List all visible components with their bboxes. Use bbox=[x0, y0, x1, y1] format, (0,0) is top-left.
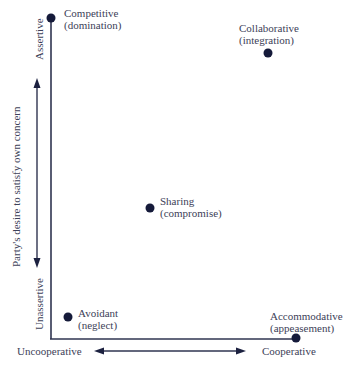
label-collaborative: Collaborative (integration) bbox=[239, 22, 299, 46]
label-name: Avoidant bbox=[78, 307, 118, 319]
arrow-down-icon bbox=[34, 258, 41, 268]
label-competitive: Competitive (domination) bbox=[64, 7, 121, 31]
label-sub: (neglect) bbox=[78, 319, 118, 331]
label-avoidant: Avoidant (neglect) bbox=[78, 307, 118, 331]
arrow-up-icon bbox=[34, 78, 41, 88]
point-collaborative bbox=[264, 49, 273, 58]
arrow-right-icon bbox=[236, 348, 246, 355]
label-name: Competitive bbox=[64, 7, 121, 19]
x-axis-right-label: Cooperative bbox=[262, 345, 316, 357]
label-name: Collaborative bbox=[239, 22, 299, 34]
arrow-left-icon bbox=[94, 348, 104, 355]
y-axis-top-label: Assertive bbox=[33, 18, 45, 60]
x-axis-left-label: Uncooperative bbox=[17, 345, 82, 357]
label-accommodative: Accommodative (appeasement) bbox=[270, 310, 343, 334]
point-competitive bbox=[47, 14, 56, 23]
y-axis-title: Party's desire to satisfy own concern bbox=[10, 106, 22, 267]
point-accommodative bbox=[292, 334, 301, 343]
point-avoidant bbox=[64, 313, 73, 322]
label-sub: (domination) bbox=[64, 19, 121, 31]
label-name: Accommodative bbox=[270, 310, 343, 322]
label-sub: (appeasement) bbox=[270, 322, 343, 334]
label-sub: (compromise) bbox=[160, 207, 222, 219]
label-sharing: Sharing (compromise) bbox=[160, 195, 222, 219]
point-sharing bbox=[146, 204, 155, 213]
label-sub: (integration) bbox=[239, 34, 299, 46]
y-axis-bottom-label: Unassertive bbox=[33, 278, 45, 330]
label-name: Sharing bbox=[160, 195, 222, 207]
